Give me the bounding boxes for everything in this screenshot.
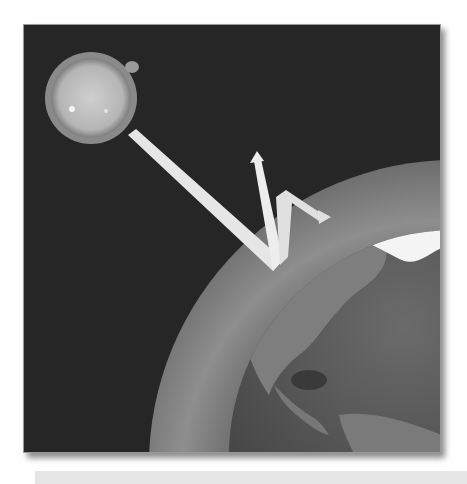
incoming-solar-radiation-arrow bbox=[128, 129, 283, 271]
illustration-frame bbox=[23, 24, 441, 453]
sun bbox=[45, 52, 139, 144]
caption-bar bbox=[35, 471, 467, 484]
sun-earth-radiation-illustration bbox=[24, 25, 441, 453]
